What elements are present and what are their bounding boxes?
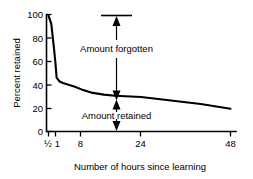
amount-retained-label: Amount retained bbox=[82, 110, 152, 121]
x-tick-label-24: 24 bbox=[135, 138, 146, 149]
x-tick-label-8: 8 bbox=[78, 138, 83, 149]
forgetting-curve-chart: 100 80 60 40 20 0 ½ 1 8 24 48 Amount for… bbox=[0, 0, 253, 179]
y-tick-label-80: 80 bbox=[32, 33, 43, 44]
y-tick-label-20: 20 bbox=[32, 103, 43, 114]
x-tick-label-1: 1 bbox=[55, 138, 60, 149]
y-tick-label-100: 100 bbox=[27, 9, 43, 20]
y-tick-label-60: 60 bbox=[32, 56, 43, 67]
y-tick-label-0: 0 bbox=[38, 126, 43, 137]
x-tick-label-half: ½ bbox=[44, 138, 52, 149]
x-tick-label-48: 48 bbox=[225, 138, 236, 149]
x-axis-title: Number of hours since learning bbox=[74, 161, 206, 172]
y-tick-label-40: 40 bbox=[32, 80, 43, 91]
amount-forgotten-label: Amount forgotten bbox=[80, 43, 153, 54]
y-axis-title: Percent retained bbox=[11, 38, 22, 108]
chart-canvas: 100 80 60 40 20 0 ½ 1 8 24 48 Amount for… bbox=[0, 0, 253, 179]
